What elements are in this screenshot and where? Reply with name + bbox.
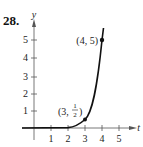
svg-text:1: 1 <box>73 102 77 110</box>
x-axis-arrow-icon <box>129 126 137 130</box>
y-tick-5: 5 <box>23 34 28 45</box>
y-tick-1: 1 <box>23 105 28 116</box>
point-label-4-5: (4, 5) <box>76 35 98 47</box>
point-4-5 <box>100 38 104 42</box>
svg-text:2: 2 <box>73 111 77 119</box>
y-axis-arrow-icon <box>32 19 36 27</box>
x-tick-labels: 1 2 3 4 5 <box>49 133 122 144</box>
svg-text:(3,: (3, <box>58 106 69 118</box>
point-3-half <box>83 118 87 122</box>
x-tick-4: 4 <box>100 133 105 144</box>
x-tick-3: 3 <box>83 133 88 144</box>
y-tick-3: 3 <box>23 71 28 82</box>
exponential-graph: 1 2 3 4 5 1 2 3 4 5 y t (3, 1 2 ) (4, 5) <box>0 0 143 147</box>
svg-text:): ) <box>79 106 82 118</box>
point-label-3-half: (3, 1 2 ) <box>58 102 82 119</box>
y-axis-label: y <box>31 9 37 20</box>
y-tick-2: 2 <box>23 88 28 99</box>
x-tick-1: 1 <box>49 133 54 144</box>
x-axis-label: t <box>137 122 140 133</box>
x-tick-2: 2 <box>66 133 71 144</box>
x-tick-5: 5 <box>117 133 122 144</box>
y-tick-4: 4 <box>23 52 28 63</box>
y-tick-labels: 1 2 3 4 5 <box>23 34 28 116</box>
